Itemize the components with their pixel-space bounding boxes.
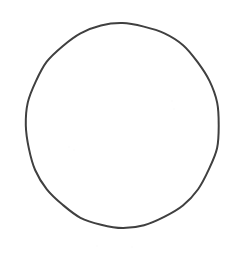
figure-canvas [0,0,245,254]
circle-figure [0,0,245,254]
background-rect [0,0,245,254]
